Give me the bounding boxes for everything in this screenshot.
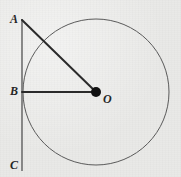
vertex-label-a: A	[10, 13, 18, 25]
vertex-label-o: O	[103, 93, 112, 105]
vertex-label-c: C	[10, 159, 18, 171]
geometry-figure: A B C O	[0, 0, 181, 177]
segment-a-to-o	[22, 20, 96, 92]
vertex-label-b: B	[10, 85, 18, 97]
center-point-o	[91, 87, 101, 97]
figure-canvas	[0, 0, 181, 177]
